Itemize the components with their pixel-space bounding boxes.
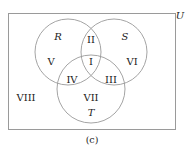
set-t-label: T [88, 107, 96, 118]
region-viii-label: VIII [15, 92, 35, 103]
venn-diagram: U R S T I II III IV V VI VII VIII (c) [0, 0, 187, 149]
region-iv-label: IV [66, 74, 78, 85]
figure-caption: (c) [86, 134, 99, 145]
region-vii-label: VII [82, 92, 98, 103]
universe-label: U [176, 10, 185, 21]
region-ii-label: II [87, 34, 95, 45]
region-i-label: I [89, 56, 93, 67]
set-s-label: S [122, 31, 129, 42]
region-vi-label: VI [125, 56, 137, 67]
region-v-label: V [46, 56, 55, 67]
region-iii-label: III [105, 74, 117, 85]
set-r-label: R [53, 31, 62, 42]
